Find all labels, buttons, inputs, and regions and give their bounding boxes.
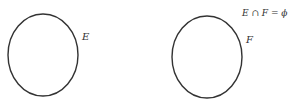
set-f-circle	[172, 16, 242, 98]
set-e-circle	[8, 14, 78, 96]
set-f-label: F	[246, 35, 253, 45]
set-e-label: E	[82, 32, 89, 42]
disjoint-caption: E ∩ F = ϕ	[242, 9, 287, 18]
